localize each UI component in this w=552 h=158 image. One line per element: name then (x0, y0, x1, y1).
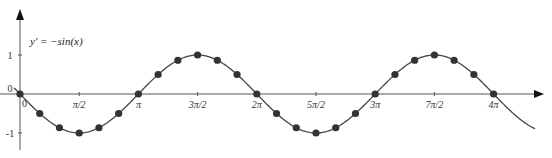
x-tick-label: 3π (369, 99, 381, 110)
data-point (214, 57, 221, 64)
axes (0, 9, 544, 150)
x-tick-label: 7π/2 (426, 99, 444, 110)
plot-area: 0π/2π3π/22π5π/23π7π/24π10-1 y' = −sin(x) (0, 0, 552, 158)
data-point (490, 90, 497, 97)
x-tick-label: 2π (252, 99, 263, 110)
data-point (135, 90, 142, 97)
data-point (451, 57, 458, 64)
y-tick-label: 1 (8, 50, 13, 61)
x-tick-label: 4π (489, 99, 500, 110)
data-point (372, 90, 379, 97)
data-point (194, 51, 201, 58)
x-tick-label: π/2 (73, 99, 86, 110)
data-point (431, 51, 438, 58)
y-axis-arrow-icon (16, 9, 24, 20)
data-point (253, 90, 260, 97)
data-point (391, 71, 398, 78)
data-point (312, 129, 319, 136)
data-point (76, 129, 83, 136)
data-point (174, 57, 181, 64)
data-point (332, 124, 339, 131)
data-point (411, 57, 418, 64)
x-tick-label: 3π/2 (188, 99, 207, 110)
y-tick-label: -1 (6, 128, 14, 139)
data-point (56, 124, 63, 131)
data-point (36, 110, 43, 117)
data-point (233, 71, 240, 78)
x-tick-label: 5π/2 (307, 99, 325, 110)
x-axis-arrow-icon (534, 90, 544, 98)
x-tick-label: π (136, 99, 142, 110)
data-point (155, 71, 162, 78)
data-point (16, 90, 23, 97)
data-point (293, 124, 300, 131)
data-point (352, 110, 359, 117)
equation-label: y' = −sin(x) (29, 35, 83, 48)
data-point (95, 124, 102, 131)
data-point (115, 110, 122, 117)
y-tick-label: 0 (8, 83, 13, 94)
data-point (273, 110, 280, 117)
x-tick-label: 0 (22, 98, 27, 109)
chart: 0π/2π3π/22π5π/23π7π/24π10-1 y' = −sin(x) (0, 0, 552, 158)
data-point (470, 71, 477, 78)
